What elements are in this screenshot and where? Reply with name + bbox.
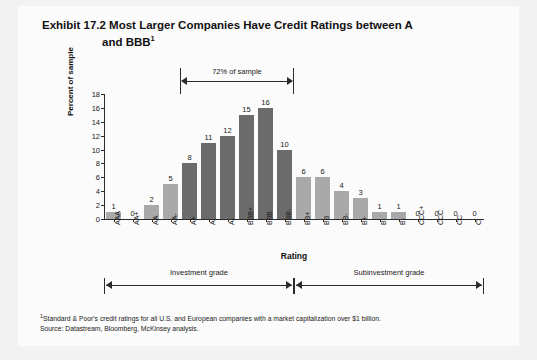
- bar-slot: 0CCC+: [408, 94, 427, 219]
- bar-value-label: 0: [465, 209, 484, 218]
- x-axis-tick-label: BB: [323, 216, 330, 225]
- x-axis-tick-label: B: [380, 220, 387, 225]
- bar-slot: 3B+: [351, 94, 370, 219]
- x-axis-tick-label: AA-: [171, 213, 178, 225]
- x-axis-line: [104, 219, 484, 220]
- bar-slot: 15BBB+: [237, 94, 256, 219]
- grade-brackets: Investment gradeSubinvestment grade: [104, 268, 484, 296]
- bar-slot: 2AA: [142, 94, 161, 219]
- bar[interactable]: [315, 177, 329, 219]
- bar[interactable]: [182, 163, 196, 219]
- bar-value-label: 1: [389, 202, 408, 211]
- bar-slot: 10BBB-: [275, 94, 294, 219]
- bar[interactable]: [201, 143, 215, 219]
- bar-series: 1AAA0AA+2AA5AA-8A+11A12A-15BBB+16BBB10BB…: [104, 94, 484, 219]
- bar[interactable]: [258, 108, 272, 219]
- bar-value-label: 1: [104, 202, 123, 211]
- sample-span-label: 72% of sample: [180, 67, 293, 76]
- grade-bracket-line: [106, 285, 292, 286]
- x-axis-tick-label: BBB-: [285, 209, 292, 225]
- grade-bracket-label: Subinvestment grade: [294, 268, 484, 277]
- footnote-note-text: Standard & Poor's credit ratings for all…: [43, 315, 381, 322]
- x-axis-tick-label: CCC+: [418, 206, 425, 225]
- bar-value-label: 16: [256, 98, 275, 107]
- bar[interactable]: [220, 136, 234, 219]
- bar-slot: 16BBB: [256, 94, 275, 219]
- bar-slot: 12A-: [218, 94, 237, 219]
- x-axis-title: Rating: [104, 251, 484, 261]
- exhibit-title-line-1: Exhibit 17.2 Most Larger Companies Have …: [42, 18, 482, 32]
- y-axis-title: Percent of sample: [66, 47, 75, 116]
- footnote-note: 1Standard & Poor's credit ratings for al…: [40, 312, 510, 324]
- y-axis-tick-mark: [101, 219, 104, 220]
- bar-value-label: 6: [313, 167, 332, 176]
- bar-value-label: 10: [275, 140, 294, 149]
- bar[interactable]: [372, 212, 386, 219]
- bar-value-label: 2: [142, 195, 161, 204]
- grade-bracket: Subinvestment grade: [294, 268, 484, 296]
- bar-slot: 6BB: [313, 94, 332, 219]
- x-axis-tick-label: A-: [228, 218, 235, 225]
- bar-value-label: 5: [161, 174, 180, 183]
- sample-span-annotation: 72% of sample: [180, 68, 293, 94]
- bar-value-label: 3: [351, 188, 370, 197]
- bar-slot: 8A+: [180, 94, 199, 219]
- x-axis-tick-label: B+: [361, 216, 368, 225]
- annotation-arrowhead-right: [287, 77, 293, 85]
- bar-value-label: 4: [332, 181, 351, 190]
- exhibit-title-line-2: and BBB1: [42, 32, 482, 49]
- bar-value-label: 8: [180, 153, 199, 162]
- bar-slot: 0AA+: [123, 94, 142, 219]
- x-axis-tick-label: AA: [152, 216, 159, 225]
- bar-value-label: 1: [370, 202, 389, 211]
- bar-value-label: 6: [294, 167, 313, 176]
- x-axis-tick-label: B-: [399, 218, 406, 225]
- title-footnote-marker: 1: [151, 34, 155, 43]
- x-axis-tick-label: A+: [190, 216, 197, 225]
- x-axis-tick-label: CC: [456, 215, 463, 225]
- grade-bracket-label: Investment grade: [104, 268, 294, 277]
- exhibit-title-line-2-text: and BBB: [102, 36, 151, 48]
- bar-slot: 0C: [465, 94, 484, 219]
- plot-area: 024681012141618 1AAA0AA+2AA5AA-8A+11A12A…: [104, 94, 484, 219]
- bar-slot: 4BB-: [332, 94, 351, 219]
- grade-bracket-post: [104, 278, 105, 294]
- footnote-source: Source: Datastream, Bloomberg, McKinsey …: [40, 324, 510, 334]
- grade-bracket-line: [296, 285, 482, 286]
- bar-slot: 6BB+: [294, 94, 313, 219]
- bar-slot: 1B: [370, 94, 389, 219]
- bar-slot: 0CCC: [427, 94, 446, 219]
- grade-bracket: Investment grade: [104, 268, 294, 296]
- bar-slot: 1B-: [389, 94, 408, 219]
- x-axis-tick-label: CCC: [437, 210, 444, 225]
- grade-bracket-post: [483, 278, 484, 294]
- bar-value-label: 15: [237, 105, 256, 114]
- footnotes: 1Standard & Poor's credit ratings for al…: [40, 312, 510, 333]
- x-axis-tick-label: BB+: [304, 212, 311, 225]
- annotation-arrowhead-left: [181, 77, 187, 85]
- x-axis-tick-label: BBB+: [247, 207, 254, 225]
- bar-value-label: 12: [218, 126, 237, 135]
- bar-slot: 11A: [199, 94, 218, 219]
- x-axis-tick-label: BBB: [266, 211, 273, 225]
- annotation-arrow-line: [182, 81, 291, 82]
- x-axis-tick-label: A: [209, 220, 216, 225]
- annotation-post: [293, 68, 294, 94]
- exhibit-page: Exhibit 17.2 Most Larger Companies Have …: [18, 6, 519, 346]
- bar-slot: 5AA-: [161, 94, 180, 219]
- x-axis-tick-label: C: [475, 220, 482, 225]
- bar-slot: 0CC: [446, 94, 465, 219]
- bar[interactable]: [239, 115, 253, 219]
- x-axis-tick-label: AAA: [114, 211, 121, 225]
- exhibit-title: Exhibit 17.2 Most Larger Companies Have …: [42, 18, 482, 49]
- x-axis-tick-label: AA+: [133, 212, 140, 225]
- x-axis-tick-label: BB-: [342, 213, 349, 225]
- grade-bracket-post: [294, 278, 295, 294]
- bar-slot: 1AAA: [104, 94, 123, 219]
- bar-value-label: 11: [199, 133, 218, 142]
